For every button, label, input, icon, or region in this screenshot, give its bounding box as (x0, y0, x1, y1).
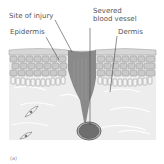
label-dermis: Dermis (118, 28, 143, 36)
epidermis-cells-right (96, 56, 155, 76)
label-severed-line2: blood vessel (93, 15, 137, 23)
skin-wound-diagram (0, 0, 164, 164)
label-site-of-injury: Site of injury (9, 12, 53, 20)
severed-vessel (79, 124, 99, 139)
label-severed-blood-vessel: Severed blood vessel (93, 7, 137, 23)
figure-label: (a) (10, 154, 17, 162)
label-severed-line1: Severed (93, 7, 137, 15)
skin-surface-right (95, 49, 156, 56)
skin-surface-left (9, 49, 70, 56)
label-epidermis: Epidermis (10, 28, 45, 36)
